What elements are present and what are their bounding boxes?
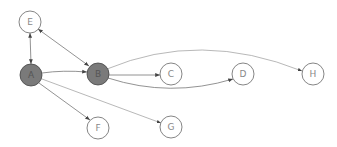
node-b[interactable]: B bbox=[87, 63, 109, 85]
node-a[interactable]: A bbox=[20, 64, 42, 86]
edge-a-f bbox=[39, 83, 90, 120]
node-h[interactable]: H bbox=[302, 63, 324, 85]
nodes: E A B C D H F G bbox=[19, 11, 324, 139]
node-e[interactable]: E bbox=[19, 11, 41, 33]
graph-diagram: E A B C D H F G bbox=[0, 0, 337, 147]
node-g[interactable]: G bbox=[160, 116, 182, 138]
node-f[interactable]: F bbox=[87, 117, 109, 139]
node-h-label: H bbox=[310, 69, 317, 79]
node-c[interactable]: C bbox=[160, 63, 182, 85]
node-d-label: D bbox=[240, 69, 247, 79]
edge-a-g bbox=[42, 79, 161, 123]
node-d[interactable]: D bbox=[232, 63, 254, 85]
edge-a-e bbox=[30, 33, 31, 64]
node-a-label: A bbox=[28, 70, 35, 80]
edge-b-h bbox=[107, 50, 302, 71]
node-b-label: B bbox=[95, 69, 101, 79]
edge-e-b bbox=[38, 29, 89, 66]
node-e-label: E bbox=[27, 17, 33, 27]
node-c-label: C bbox=[168, 69, 174, 79]
edge-a-b bbox=[42, 71, 87, 73]
node-g-label: G bbox=[168, 122, 175, 132]
node-f-label: F bbox=[95, 123, 100, 133]
